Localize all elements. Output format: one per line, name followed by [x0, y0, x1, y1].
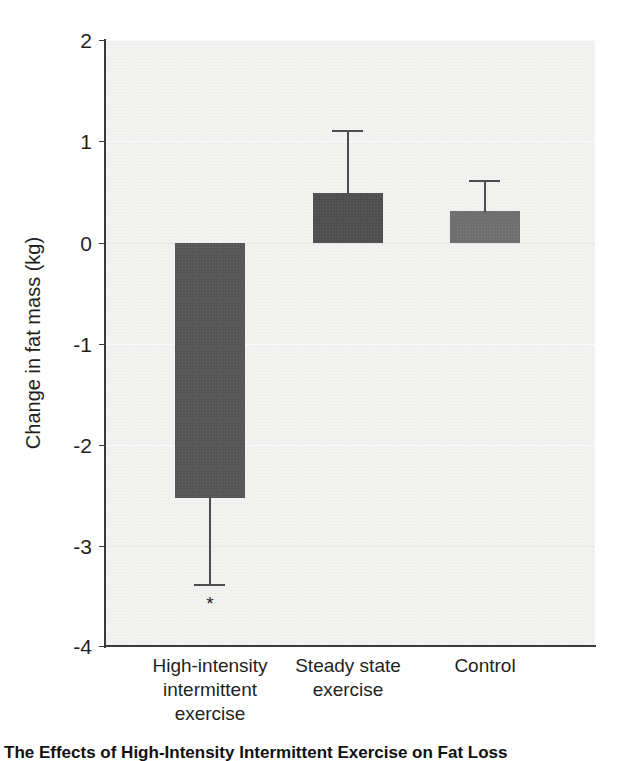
error-bar-cap-control: [469, 180, 500, 182]
error-bar-stem-steady-state-exercise: [347, 130, 349, 194]
tick-mark-neg2: [99, 445, 105, 446]
y-axis-title: Change in fat mass (kg): [18, 40, 48, 646]
x-category-label-line-2: exercise: [284, 678, 412, 702]
gridline-neg3: [105, 546, 595, 547]
x-category-label-line-1: High-intensity: [128, 654, 292, 678]
x-category-label-line-1: Steady state: [284, 654, 412, 678]
bar-steady-state-exercise: [313, 193, 383, 243]
bar-high-intensity-intermittent-exercise: [175, 243, 245, 498]
x-category-label-line-3: exercise: [128, 702, 292, 726]
significance-asterisk: *: [195, 594, 225, 613]
error-bar-cap-steady-state-exercise: [332, 130, 363, 132]
x-category-label-line-2: intermittent: [128, 678, 292, 702]
gridline-1: [105, 141, 595, 142]
tick-mark-2: [99, 40, 105, 41]
x-category-label-line-1: Control: [425, 654, 545, 678]
figure-container: 2 1 0 -1 -2 -3 -4 Change in fat mass (kg…: [0, 0, 619, 761]
tick-mark-neg3: [99, 546, 105, 547]
x-category-label-steady-state-exercise: Steady state exercise: [284, 654, 412, 702]
tick-mark-0: [99, 243, 105, 244]
error-bar-stem-high-intensity-intermittent-exercise: [209, 498, 211, 585]
error-bar-cap-high-intensity-intermittent-exercise: [194, 584, 225, 586]
tick-mark-neg4: [99, 646, 105, 647]
x-category-label-control: Control: [425, 654, 545, 678]
tick-mark-neg1: [99, 344, 105, 345]
gridline-2: [105, 40, 595, 41]
figure-caption: The Effects of High-Intensity Intermitte…: [4, 742, 619, 761]
tick-mark-1: [99, 141, 105, 142]
bar-control: [450, 211, 520, 243]
error-bar-stem-control: [484, 180, 486, 212]
x-axis-line: [104, 645, 596, 647]
x-category-label-high-intensity-intermittent-exercise: High-intensity intermittent exercise: [128, 654, 292, 726]
